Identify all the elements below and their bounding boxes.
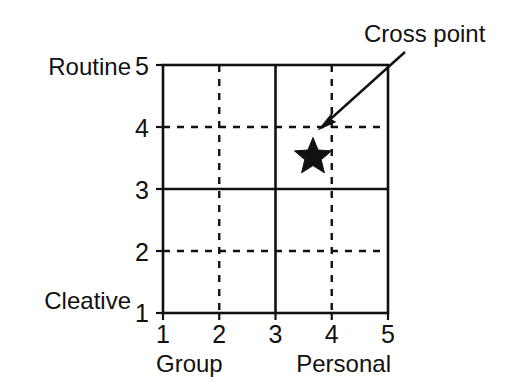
- xtick-label-5: 5: [381, 320, 395, 348]
- xaxis-right-label-personal: Personal: [296, 350, 391, 377]
- xaxis-left-label-group: Group: [156, 350, 223, 377]
- yaxis-top-label-routine: Routine: [48, 53, 131, 80]
- cross-point-annotation-label: Cross point: [364, 20, 486, 47]
- xtick-label-1: 1: [156, 320, 170, 348]
- chart-canvas: 5 4 3 2 1 1 2 3 4 5 Routine Cleative Gro…: [0, 0, 523, 384]
- xtick-label-3: 3: [269, 320, 283, 348]
- ytick-label-5: 5: [135, 52, 149, 80]
- xtick-label-4: 4: [325, 320, 339, 348]
- yaxis-bottom-label-cleative: Cleative: [44, 287, 131, 314]
- xtick-label-2: 2: [212, 320, 226, 348]
- chart-figure: 5 4 3 2 1 1 2 3 4 5 Routine Cleative Gro…: [0, 0, 523, 384]
- ytick-label-3: 3: [135, 176, 149, 204]
- ytick-label-1: 1: [135, 299, 149, 327]
- ytick-label-4: 4: [135, 114, 149, 142]
- ytick-label-2: 2: [135, 238, 149, 266]
